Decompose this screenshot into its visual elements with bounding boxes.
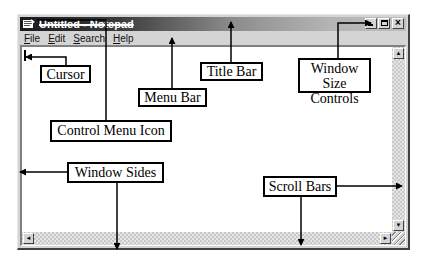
close-icon: × xyxy=(393,17,403,29)
callout-scroll-bars: Scroll Bars xyxy=(263,176,337,197)
menu-search[interactable]: Search xyxy=(69,33,109,45)
menu-edit[interactable]: Edit xyxy=(44,33,69,45)
title-bar[interactable]: Untitled - Notepad × xyxy=(20,17,406,31)
arrow-right-icon: ► xyxy=(383,235,389,241)
menu-help-rest: elp xyxy=(120,33,133,44)
maximize-icon xyxy=(381,20,388,26)
window-size-controls: × xyxy=(364,18,404,30)
callout-window-size-controls: Window Size Controls xyxy=(298,58,371,93)
arrow-down-icon: ▼ xyxy=(396,222,402,228)
menu-help[interactable]: Help xyxy=(109,33,138,45)
scroll-down-button[interactable]: ▼ xyxy=(393,220,404,231)
control-menu-icon[interactable] xyxy=(22,18,36,30)
close-button[interactable]: × xyxy=(392,18,404,29)
callout-title-bar: Title Bar xyxy=(200,62,263,81)
menu-edit-rest: dit xyxy=(55,33,66,44)
vertical-scrollbar[interactable]: ▲ ▼ xyxy=(392,47,405,232)
text-cursor xyxy=(24,50,26,61)
maximize-button[interactable] xyxy=(378,18,390,29)
scroll-left-button[interactable]: ◄ xyxy=(23,233,34,244)
menu-file[interactable]: File xyxy=(20,33,44,45)
callout-menu-bar: Menu Bar xyxy=(138,88,207,107)
menu-bar: File Edit Search Help xyxy=(20,32,406,45)
callout-control-menu-icon: Control Menu Icon xyxy=(50,120,172,142)
arrow-left-icon: ◄ xyxy=(26,235,32,241)
menu-edit-accel: E xyxy=(48,33,55,44)
minimize-icon xyxy=(368,24,373,26)
scroll-up-button[interactable]: ▲ xyxy=(393,48,404,59)
callout-window-sides: Window Sides xyxy=(67,162,164,183)
scroll-right-button[interactable]: ► xyxy=(380,233,391,244)
size-grip[interactable] xyxy=(392,232,405,245)
window-title: Untitled - Notepad xyxy=(39,17,134,31)
menu-search-rest: earch xyxy=(80,33,105,44)
callout-cursor: Cursor xyxy=(40,65,91,83)
minimize-button[interactable] xyxy=(365,18,377,29)
horizontal-scrollbar[interactable]: ◄ ► xyxy=(22,232,392,245)
menu-file-rest: ile xyxy=(30,33,40,44)
arrow-up-icon: ▲ xyxy=(396,50,402,56)
